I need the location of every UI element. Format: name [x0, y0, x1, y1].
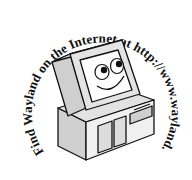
wayland-internet-badge: Find Wayland on the Internet at http://w… — [0, 0, 192, 180]
computer-icon — [52, 40, 154, 160]
badge-graphic: Find Wayland on the Internet at http://w… — [0, 0, 192, 180]
